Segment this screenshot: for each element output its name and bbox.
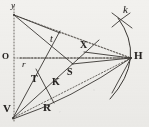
- point-dot-y: [13, 14, 15, 16]
- label-point-R: R: [43, 102, 51, 113]
- point-dot-H: [130, 57, 132, 59]
- segment-X-to-H: [84, 52, 131, 58]
- segment-k-tick: [112, 13, 132, 28]
- label-point-r: r: [22, 60, 26, 69]
- label-point-H: H: [134, 50, 143, 61]
- label-point-T: T: [31, 74, 38, 84]
- label-point-y: y: [11, 1, 15, 10]
- segment-y-to-l: [14, 15, 60, 33]
- segment-y-to-S: [14, 15, 73, 64]
- label-point-K: K: [52, 77, 60, 87]
- label-point-l: t: [50, 34, 53, 44]
- segment-S-to-H: [72, 58, 131, 64]
- figure-canvas: y O r t X k H S K T R V: [0, 0, 149, 127]
- point-dot-V: [12, 117, 14, 119]
- label-point-S: S: [67, 67, 73, 77]
- label-point-O: O: [2, 52, 9, 61]
- label-point-V: V: [3, 103, 11, 114]
- segment-l-to-H: [59, 32, 131, 58]
- label-point-X: X: [80, 40, 87, 50]
- label-point-k: k: [123, 4, 128, 15]
